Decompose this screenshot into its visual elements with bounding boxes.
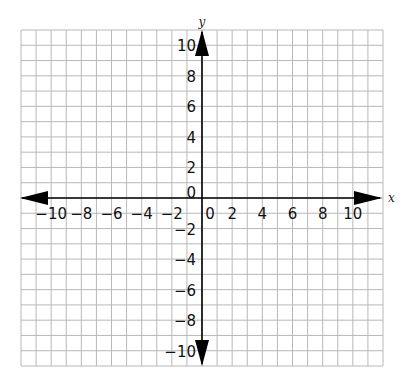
y-tick-label: 0 (186, 184, 196, 202)
y-tick-label: 6 (186, 98, 196, 116)
y-tick-label: −2 (174, 221, 196, 239)
x-axis-left-arrow-icon (20, 191, 48, 205)
coordinate-plane: −10−8−6−4−20246810 1086420−2−4−6−8−10 x … (0, 0, 411, 382)
x-axis-label: x (388, 191, 395, 205)
y-tick-labels: 1086420−2−4−6−8−10 (164, 37, 196, 360)
y-tick-label: −10 (164, 343, 196, 361)
x-tick-label: −6 (100, 205, 122, 223)
y-tick-label: −6 (174, 282, 196, 300)
x-tick-label: −8 (70, 205, 92, 223)
y-tick-label: 2 (186, 159, 196, 177)
y-tick-label: 4 (186, 129, 196, 147)
y-axis-label: y (198, 15, 206, 29)
x-tick-label: −10 (35, 205, 67, 223)
x-tick-label: 6 (288, 205, 298, 223)
y-axis-up-arrow-icon (195, 30, 209, 56)
y-axis-down-arrow-icon (195, 340, 209, 366)
x-tick-label: −4 (131, 205, 153, 223)
x-tick-label: 4 (258, 205, 268, 223)
axes (20, 30, 382, 366)
y-tick-label: 10 (177, 37, 196, 55)
y-tick-label: 8 (186, 68, 196, 86)
y-tick-label: −8 (174, 312, 196, 330)
x-tick-label: 0 (205, 205, 215, 223)
x-tick-label: 8 (318, 205, 328, 223)
x-tick-labels: −10−8−6−4−20246810 (35, 205, 362, 223)
x-tick-label: 10 (343, 205, 362, 223)
x-tick-label: 2 (227, 205, 237, 223)
y-tick-label: −4 (174, 251, 196, 269)
